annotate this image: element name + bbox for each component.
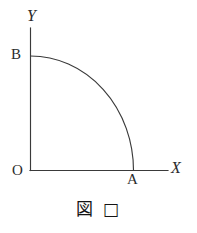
point-label-a: A [127,172,138,187]
quarter-circle-arc [31,56,134,171]
figure-caption: 図 □ [0,200,197,220]
figure-container: Y X B O A 図 □ [0,0,197,233]
point-label-o: O [12,163,23,178]
x-axis-label: X [171,160,181,176]
y-axis-label: Y [27,8,36,24]
point-label-b: B [11,47,21,62]
